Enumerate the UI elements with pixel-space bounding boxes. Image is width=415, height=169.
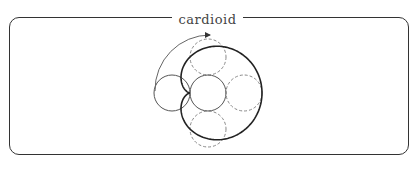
cardioid-curve [181,46,262,140]
cardioid-diagram [0,0,415,169]
motion-arrow-icon [155,35,210,91]
rolling-circle-left [154,75,190,111]
fixed-circle [190,75,226,111]
rolling-circle-dashed-bottom [190,111,226,147]
rolling-circle-dashed-right [226,75,262,111]
rolling-circle-dashed-top [190,39,226,75]
